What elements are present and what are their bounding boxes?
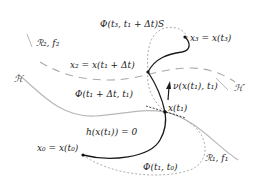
label-x2: x₂ = x(t₁ + Δt) bbox=[70, 60, 135, 70]
label-region2: ℛ₂, f₂ bbox=[36, 38, 59, 48]
label-normal: ν(x(t₁), t₁) bbox=[173, 81, 218, 91]
label-x1: x(t₁) bbox=[168, 103, 187, 113]
label-region1: ℛ₁, f₁ bbox=[205, 153, 228, 163]
label-phi-t1t0: Φ(t₁, t₀) bbox=[143, 162, 178, 172]
normal-arrowhead-icon bbox=[166, 81, 171, 89]
flow-phi-t3 bbox=[148, 27, 188, 72]
label-phi-t1dt: Φ(t₁ + Δt, t₁) bbox=[75, 89, 133, 99]
flow-phi-t1dt-t1 bbox=[148, 72, 165, 112]
point-x2 bbox=[146, 70, 149, 73]
region2-boundary bbox=[27, 34, 32, 47]
label-phi-t3: Φ(t₃, t₁ + Δt)S bbox=[100, 19, 164, 29]
point-x3 bbox=[183, 35, 186, 38]
label-surface-h-prime: ℋ′ bbox=[234, 83, 245, 93]
trajectory-segment-3 bbox=[148, 37, 189, 72]
label-surface-h: ℋ bbox=[14, 74, 23, 84]
label-h-eq: h(x(t₁)) = 0 bbox=[86, 127, 137, 137]
label-x3: x₃ = x(t₃) bbox=[190, 33, 231, 43]
point-x0 bbox=[81, 153, 84, 156]
point-x1 bbox=[163, 110, 167, 114]
label-x0: x₀ = x(t₀) bbox=[37, 143, 78, 153]
